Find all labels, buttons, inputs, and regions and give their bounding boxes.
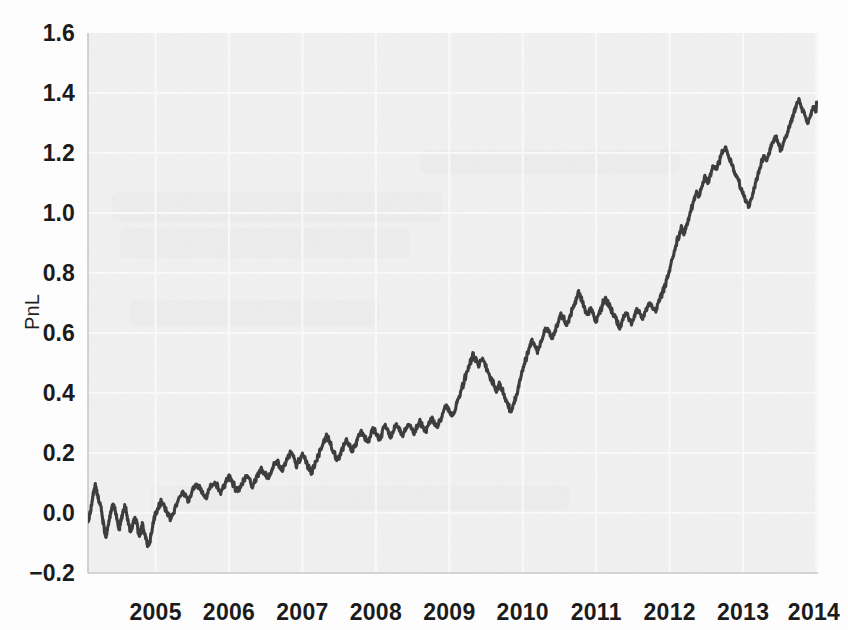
paper-grain-overlay — [0, 0, 848, 630]
chart-canvas: 1.61.41.21.00.80.60.40.20.0−0.2 20052006… — [0, 0, 848, 630]
pnl-chart-figure: 1.61.41.21.00.80.60.40.20.0−0.2 20052006… — [0, 0, 848, 630]
